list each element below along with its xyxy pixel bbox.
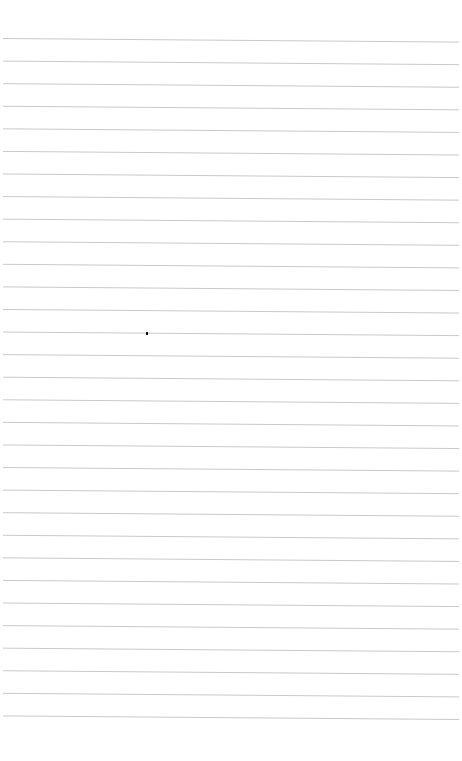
ruled-line	[3, 106, 459, 110]
lined-paper-page	[0, 0, 462, 761]
ruled-line	[3, 558, 459, 562]
ruled-line	[3, 468, 459, 472]
ruled-line	[3, 377, 459, 381]
ruled-line	[3, 332, 459, 336]
ruled-line	[3, 39, 459, 43]
ink-dot-mark	[146, 332, 148, 335]
ruled-line	[3, 535, 459, 539]
ruled-line	[3, 580, 459, 584]
ruled-line	[3, 603, 459, 607]
ruled-line	[3, 287, 459, 291]
ruled-line	[3, 400, 459, 404]
ruled-line	[3, 129, 459, 133]
ruled-line	[3, 355, 459, 359]
ruled-line	[3, 671, 459, 675]
ruled-line	[3, 693, 459, 697]
ruled-line	[3, 61, 459, 65]
ruled-line	[3, 151, 459, 155]
ruled-line	[3, 716, 459, 720]
ruled-line	[3, 264, 459, 268]
ruled-line	[3, 445, 459, 449]
ruled-line	[3, 648, 459, 652]
ruled-line	[3, 513, 459, 517]
ruled-line	[3, 490, 459, 494]
ruled-line	[3, 84, 459, 88]
ruled-lines	[0, 0, 462, 761]
ruled-line	[3, 219, 459, 223]
ruled-line	[3, 174, 459, 178]
ruled-line	[3, 422, 459, 426]
ruled-line	[3, 242, 459, 246]
ruled-line	[3, 197, 459, 201]
ruled-line	[3, 309, 459, 313]
ruled-line	[3, 626, 459, 630]
